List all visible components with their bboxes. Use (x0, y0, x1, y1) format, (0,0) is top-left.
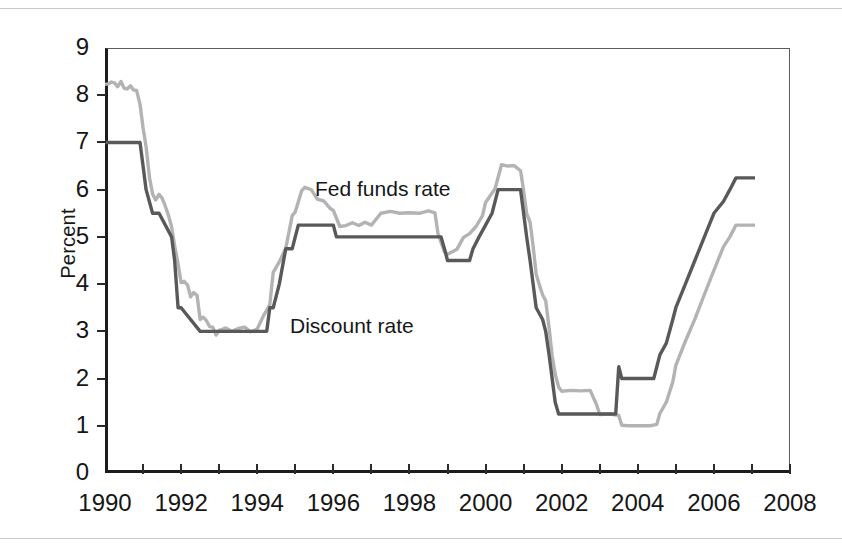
x-tick-label: 2008 (745, 491, 835, 515)
y-tick-label: 5 (49, 224, 89, 248)
x-tick-mark (256, 464, 258, 474)
x-tick-mark (523, 464, 525, 474)
x-tick-mark (142, 464, 144, 474)
x-tick-mark (180, 464, 182, 474)
chart-plot-area (105, 48, 790, 473)
y-tick-mark (97, 425, 106, 427)
page-rule-bottom (0, 538, 842, 539)
x-tick-mark (637, 464, 639, 474)
page-rule-top (0, 8, 842, 9)
y-tick-label: 2 (49, 366, 89, 390)
x-tick-mark (599, 464, 601, 474)
y-tick-label: 9 (49, 35, 89, 59)
y-tick-mark (97, 330, 106, 332)
x-tick-mark (751, 464, 753, 474)
series-line (105, 82, 755, 426)
y-tick-label: 4 (49, 271, 89, 295)
y-tick-mark (97, 141, 106, 143)
y-tick-label: 6 (49, 177, 89, 201)
line-chart-figure: Percent 0123456789 199019921994199619982… (0, 20, 842, 530)
x-tick-mark (332, 464, 334, 474)
x-tick-mark (370, 464, 372, 474)
x-tick-mark (561, 464, 563, 474)
x-tick-mark (408, 464, 410, 474)
y-tick-label: 0 (49, 460, 89, 484)
y-tick-mark (97, 189, 106, 191)
x-tick-mark (713, 464, 715, 474)
y-tick-label: 7 (49, 129, 89, 153)
x-tick-mark (789, 464, 791, 474)
series-label-discount-rate: Discount rate (290, 315, 414, 336)
y-tick-mark (97, 94, 106, 96)
y-tick-label: 8 (49, 82, 89, 106)
x-tick-mark (294, 464, 296, 474)
y-tick-mark (97, 236, 106, 238)
x-tick-mark (675, 464, 677, 474)
x-tick-mark (485, 464, 487, 474)
x-tick-mark (447, 464, 449, 474)
y-tick-mark (97, 378, 106, 380)
series-label-fed-funds: Fed funds rate (315, 178, 450, 199)
y-tick-label: 3 (49, 318, 89, 342)
x-tick-mark (218, 464, 220, 474)
y-tick-label: 1 (49, 413, 89, 437)
figure-page: Percent 0123456789 199019921994199619982… (0, 0, 842, 553)
y-tick-mark (97, 283, 106, 285)
